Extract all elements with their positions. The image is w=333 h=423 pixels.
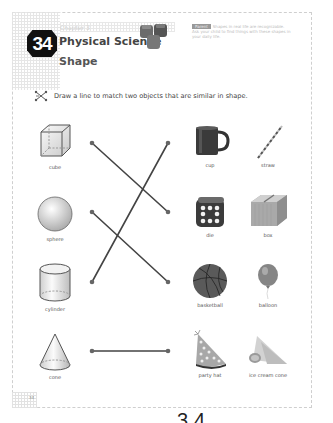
right-dot-3[interactable] — [166, 280, 171, 285]
left-dot-2[interactable] — [90, 210, 95, 215]
match-line-cube-die — [92, 143, 168, 212]
page-number: 34 — [29, 395, 34, 400]
right-dot-1[interactable] — [166, 141, 171, 146]
left-dot-3[interactable] — [90, 280, 95, 285]
matching-lines — [0, 0, 333, 423]
left-dot-4[interactable] — [90, 349, 95, 354]
match-line-sphere-basketball — [92, 212, 168, 282]
left-dot-1[interactable] — [90, 141, 95, 146]
right-dot-4[interactable] — [166, 349, 171, 354]
bottom-number: 34 — [177, 410, 211, 423]
match-line-cylinder-cup — [92, 143, 168, 282]
right-dot-2[interactable] — [166, 210, 171, 215]
